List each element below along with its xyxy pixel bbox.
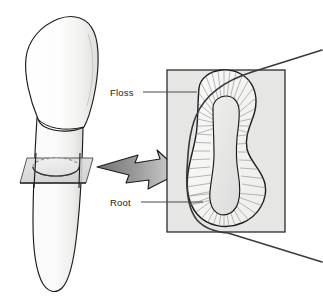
figure-root: Floss Root [0,0,323,301]
diagram-canvas: Floss Root [0,0,323,301]
label-floss-text: Floss [110,87,134,98]
cutting-plane [20,153,93,188]
tooth-side-view [20,17,98,292]
label-root-text: Root [110,197,131,208]
root-cross-section [167,50,322,262]
tooth-crown-shape [26,17,99,132]
tooth-root-shape [33,118,83,291]
pulp-cavity [210,96,240,215]
